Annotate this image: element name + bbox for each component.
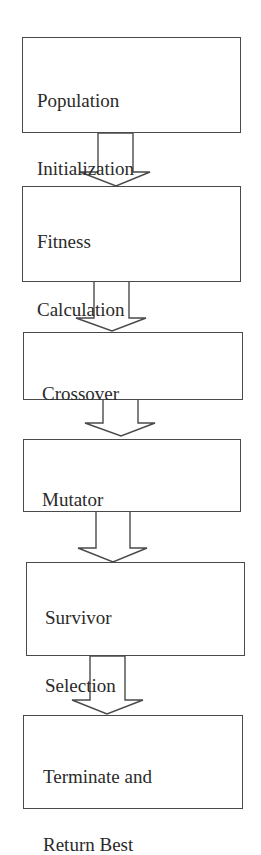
step-terminate-return-best: Terminate and Return Best — [23, 715, 243, 809]
step-label-line: Selection — [45, 669, 116, 703]
step-crossover: Crossover — [23, 332, 243, 400]
step-label-line: Crossover — [42, 377, 119, 411]
step-label-line: Return Best — [43, 828, 152, 855]
step-mutator: Mutator — [23, 439, 241, 512]
step-fitness-calculation: Fitness Calculation — [22, 186, 241, 282]
step-survivor-selection: Survivor Selection — [26, 562, 245, 656]
step-label-line: Initialization — [37, 152, 134, 186]
step-label: Survivor Selection — [45, 567, 116, 737]
step-label-line: Mutator — [42, 483, 103, 517]
step-population-initialization: Population Initialization — [22, 37, 241, 133]
step-label: Mutator — [42, 449, 103, 551]
step-label-line: Population — [37, 84, 134, 118]
step-label-line: Survivor — [45, 601, 116, 635]
step-label-line: Terminate and — [43, 760, 152, 794]
step-label: Terminate and Return Best — [43, 726, 152, 855]
step-label-line: Fitness — [37, 225, 125, 259]
step-label: Crossover — [42, 343, 119, 445]
step-label-line: Calculation — [37, 293, 125, 327]
